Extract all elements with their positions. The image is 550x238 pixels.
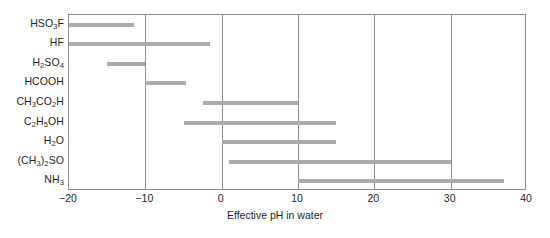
x-tick-label: 10 <box>291 192 303 205</box>
x-tick-label: 20 <box>367 192 379 205</box>
x-tick-label: −10 <box>135 192 153 205</box>
bar-HF <box>69 42 210 46</box>
category-label-HCOOH: HCOOH <box>0 76 64 87</box>
gridline <box>451 15 452 189</box>
category-label-H2O: H2O <box>0 135 64 146</box>
bar-(CH3)2SO <box>229 160 450 164</box>
category-label-HF: HF <box>0 37 64 48</box>
category-label-HSO3F: HSO3F <box>0 18 64 29</box>
category-label-CH3CO2H: CH3CO2H <box>0 96 64 107</box>
x-tick-label: −20 <box>59 192 77 205</box>
gridline <box>145 15 146 189</box>
plot-area <box>68 14 526 190</box>
bar-H2O <box>222 140 337 144</box>
bar-C2H5OH <box>184 121 337 125</box>
bar-H2SO4 <box>107 62 145 66</box>
category-label-H2SO4: H2SO4 <box>0 57 64 68</box>
category-label-C2H5OH: C2H5OH <box>0 116 64 127</box>
bar-NH3 <box>298 179 504 183</box>
ph-range-chart-figure: HSO3FHFH2SO4HCOOHCH3CO2HC2H5OHH2O(CH3)2S… <box>0 0 550 238</box>
x-tick-label: 40 <box>520 192 532 205</box>
x-tick-label: 30 <box>444 192 456 205</box>
bar-HSO3F <box>69 23 134 27</box>
x-axis-title: Effective pH in water <box>0 209 550 222</box>
bar-CH3CO2H <box>203 101 298 105</box>
category-label-NH3: NH3 <box>0 174 64 185</box>
x-tick-label: 0 <box>218 192 224 205</box>
x-axis-tick-labels: −20−10010203040 <box>68 192 526 208</box>
bar-HCOOH <box>145 81 185 85</box>
category-axis-labels: HSO3FHFH2SO4HCOOHCH3CO2HC2H5OHH2O(CH3)2S… <box>0 14 64 190</box>
category-label-(CH3)2SO: (CH3)2SO <box>0 155 64 166</box>
